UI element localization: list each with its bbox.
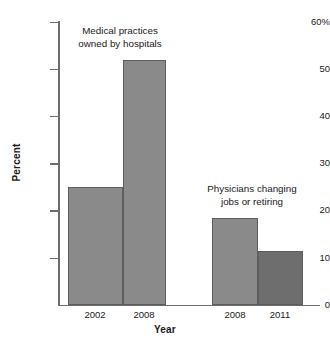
- y-axis-title: Percent: [11, 133, 22, 193]
- y-tick-20: [50, 210, 58, 212]
- y-tick-60: [50, 22, 58, 24]
- y-tick-label-50: 50: [284, 64, 330, 74]
- x-tick-label-2011: 2011: [250, 309, 310, 321]
- bar-2011-physicians-changing: [258, 251, 303, 305]
- annotation-physicians-changing-line1: Physicians changing: [188, 183, 316, 196]
- y-tick-label-30: 30: [284, 158, 330, 168]
- y-tick-10: [50, 258, 58, 260]
- y-axis-line: [58, 21, 60, 306]
- x-tick-label-2008-a: 2008: [114, 309, 174, 321]
- y-tick-label-60: 60%: [284, 17, 330, 27]
- annotation-medical-practices-line1: Medical practices: [56, 25, 184, 38]
- y-tick-label-40: 40: [284, 111, 330, 121]
- bar-chart: Percent 60% 50 40 30 20 10 0 2002 2008 2…: [0, 0, 330, 347]
- annotation-physicians-changing: Physicians changing jobs or retiring: [188, 183, 316, 208]
- bar-2002-medical-practices: [68, 187, 123, 305]
- bar-2008-medical-practices: [123, 60, 166, 305]
- bar-2008-physicians-changing: [212, 218, 258, 305]
- annotation-medical-practices: Medical practices owned by hospitals: [56, 25, 184, 50]
- y-tick-40: [50, 116, 58, 118]
- annotation-medical-practices-line2: owned by hospitals: [56, 38, 184, 51]
- x-axis-title: Year: [0, 324, 330, 335]
- y-tick-30: [50, 163, 58, 165]
- y-tick-50: [50, 69, 58, 71]
- annotation-physicians-changing-line2: jobs or retiring: [188, 196, 316, 209]
